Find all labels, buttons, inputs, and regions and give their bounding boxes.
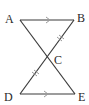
label-d: D xyxy=(4,90,13,104)
label-b: B xyxy=(77,11,85,25)
triangle-figure: A B C D E xyxy=(0,0,89,105)
label-c: C xyxy=(54,53,62,67)
label-e: E xyxy=(78,90,85,104)
label-a: A xyxy=(5,12,14,26)
